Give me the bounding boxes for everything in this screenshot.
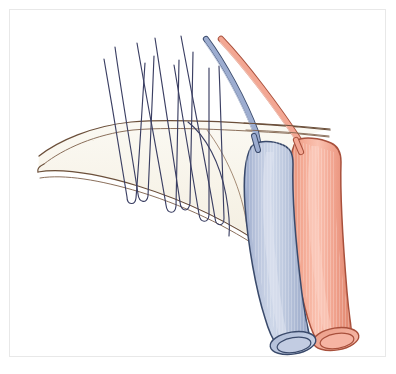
illustration-canvas bbox=[0, 0, 396, 374]
cannula-blue-highlight bbox=[205, 43, 254, 134]
figure-root: Surgical anastomosis illustration: two c… bbox=[0, 0, 396, 374]
